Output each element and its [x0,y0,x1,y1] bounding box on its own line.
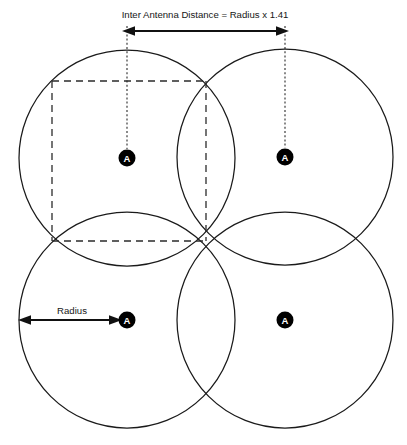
arrow-head-left-icon [122,26,135,36]
diagram-title: Inter Antenna Distance = Radius x 1.41 [122,9,289,20]
antenna-label: A [124,315,131,326]
antenna-label: A [282,315,289,326]
antenna-bottom-right: A [277,312,294,329]
inter-antenna-dimension-group: Inter Antenna Distance = Radius x 1.41 [122,9,289,149]
antenna-label: A [124,153,131,164]
antenna-top-right: A [277,149,294,166]
radius-dimension-group: Radius [18,305,122,325]
arrow-head-right-icon [276,26,289,36]
radius-label: Radius [57,305,87,316]
antenna-top-left: A [119,150,136,167]
antenna-label: A [282,152,289,163]
antenna-bottom-left: A [119,312,136,329]
diagram-canvas: Inter Antenna Distance = Radius x 1.41 R… [0,0,407,445]
antenna-coverage-diagram: Inter Antenna Distance = Radius x 1.41 R… [0,0,407,445]
radius-arrow-head-left-icon [18,315,31,325]
